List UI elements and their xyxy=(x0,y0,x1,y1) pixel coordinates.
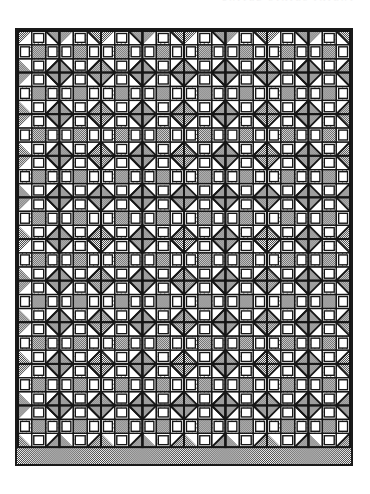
quilt-patch xyxy=(90,213,99,223)
quilt-patch xyxy=(256,421,265,431)
quilt-patch xyxy=(75,200,85,209)
quilt-patch xyxy=(103,255,112,265)
quilt-patch xyxy=(34,394,44,403)
quilt-patch xyxy=(73,336,87,350)
quilt-patch xyxy=(324,408,334,417)
quilt-patch xyxy=(200,408,210,417)
quilt-patch xyxy=(297,297,306,307)
quilt-patch xyxy=(173,213,182,223)
quilt-patch xyxy=(158,75,168,84)
quilt-patch xyxy=(34,103,44,112)
quilt-patch xyxy=(158,61,168,70)
quilt-patch xyxy=(75,311,85,320)
quilt-patch xyxy=(297,47,306,57)
quilt-patch xyxy=(200,311,210,320)
quilt-patch xyxy=(311,172,320,182)
quilt-patch xyxy=(241,394,251,403)
quilt-patch xyxy=(214,213,223,223)
quilt-patch xyxy=(200,394,210,403)
quilt-patch xyxy=(200,200,210,209)
quilt-patch xyxy=(186,255,195,265)
quilt-patch xyxy=(239,170,253,184)
quilt-patch xyxy=(90,338,99,348)
quilt-patch xyxy=(20,297,29,307)
quilt-patch xyxy=(256,380,265,390)
quilt-patch xyxy=(20,380,29,390)
quilt-patch xyxy=(117,228,127,237)
quilt-patch xyxy=(156,45,170,59)
quilt-patch xyxy=(75,117,85,126)
quilt-patch xyxy=(75,436,85,445)
quilt-patch xyxy=(145,130,154,140)
quilt-patch xyxy=(324,228,334,237)
quilt-patch xyxy=(186,380,195,390)
quilt-patch xyxy=(75,228,85,237)
quilt-patch xyxy=(62,297,71,307)
quilt-patch xyxy=(200,117,210,126)
quilt-patch xyxy=(214,297,223,307)
quilt-patch xyxy=(173,255,182,265)
quilt-patch xyxy=(117,242,127,251)
quilt-patch xyxy=(281,295,295,309)
quilt-patch xyxy=(34,158,44,167)
quilt-patch xyxy=(239,419,253,433)
quilt-patch xyxy=(156,336,170,350)
quilt-patch xyxy=(281,86,295,100)
quilt-patch xyxy=(117,117,127,126)
quilt-patch xyxy=(297,88,306,98)
quilt-patch xyxy=(311,297,320,307)
quilt-patch xyxy=(228,47,237,57)
quilt-patch xyxy=(322,378,336,392)
quilt-patch xyxy=(283,394,293,403)
quilt-patch xyxy=(269,88,278,98)
quilt-patch xyxy=(200,61,210,70)
quilt-patch xyxy=(103,47,112,57)
quilt-patch xyxy=(75,242,85,251)
quilt-patch xyxy=(256,213,265,223)
quilt-patch xyxy=(200,242,210,251)
header-text: UNITED STATES PATENT xyxy=(221,0,356,3)
quilt-patch xyxy=(297,213,306,223)
quilt-patch xyxy=(34,117,44,126)
quilt-patch xyxy=(241,200,251,209)
quilt-patch xyxy=(62,88,71,98)
quilt-patch xyxy=(239,336,253,350)
quilt-patch xyxy=(198,253,212,267)
quilt-patch xyxy=(32,253,46,267)
quilt-patch xyxy=(158,269,168,278)
quilt-patch xyxy=(158,408,168,417)
quilt-patch xyxy=(75,408,85,417)
quilt-patch xyxy=(20,130,29,140)
quilt-patch xyxy=(241,158,251,167)
quilt-patch xyxy=(48,297,57,307)
quilt-patch xyxy=(73,419,87,433)
quilt-patch xyxy=(115,86,129,100)
quilt-patch xyxy=(241,33,251,42)
quilt-patch xyxy=(324,200,334,209)
quilt-patch xyxy=(241,325,251,334)
quilt-patch xyxy=(20,255,29,265)
quilt-patch xyxy=(241,103,251,112)
quilt-patch xyxy=(75,158,85,167)
quilt-patch xyxy=(117,366,127,375)
quilt-patch xyxy=(32,45,46,59)
quilt-patch xyxy=(200,283,210,292)
quilt-patch xyxy=(156,419,170,433)
quilt-patch xyxy=(173,421,182,431)
quilt-patch xyxy=(283,242,293,251)
quilt-patch xyxy=(158,117,168,126)
quilt-patch xyxy=(48,255,57,265)
quilt-patch xyxy=(324,33,334,42)
quilt-patch xyxy=(339,255,348,265)
quilt-patch xyxy=(145,380,154,390)
quilt-patch xyxy=(103,88,112,98)
quilt-patch xyxy=(228,421,237,431)
quilt-patch xyxy=(75,366,85,375)
quilt-patch xyxy=(156,170,170,184)
quilt-patch xyxy=(228,255,237,265)
quilt-patch xyxy=(32,128,46,142)
quilt-patch xyxy=(75,75,85,84)
quilt-patch xyxy=(156,378,170,392)
quilt-patch xyxy=(145,88,154,98)
quilt-patch xyxy=(34,325,44,334)
